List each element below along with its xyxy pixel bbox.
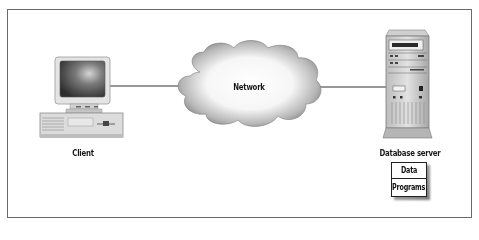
server-label: Database server — [379, 148, 441, 158]
stack-cell-programs-label: Programs — [393, 183, 426, 192]
desktop-computer-icon — [40, 57, 123, 138]
stack-cell-data-label: Data — [401, 166, 417, 175]
stack-cell-data: Data — [391, 162, 427, 179]
stack-cell-programs: Programs — [391, 179, 427, 197]
server-contents-stack: Data Programs — [391, 162, 427, 197]
server-tower-icon — [383, 30, 432, 138]
client-label: Client — [69, 148, 97, 158]
network-label: Network — [230, 82, 268, 92]
